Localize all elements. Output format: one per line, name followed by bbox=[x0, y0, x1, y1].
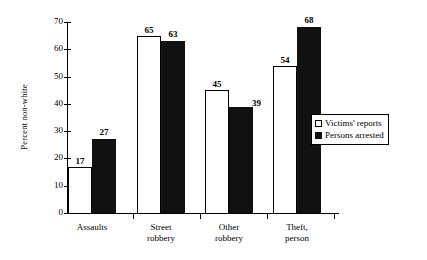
y-tick-label-30: 30 bbox=[54, 125, 63, 135]
y-axis-title: Percent non-white bbox=[19, 47, 29, 187]
bar-group-other-robbery: 45 39 bbox=[205, 22, 253, 213]
bar-other-robbery-victims-reports: 45 bbox=[205, 90, 229, 213]
bar-street-robbery-victims-reports: 65 bbox=[137, 36, 161, 213]
bar-value-street-robbery-victims-reports: 65 bbox=[145, 25, 154, 35]
filled-square-icon bbox=[315, 132, 322, 139]
x-axis-label-other-robbery: Other robbery bbox=[196, 222, 262, 244]
x-axis-line bbox=[67, 213, 339, 214]
legend-item-persons-arrested: Persons arrested bbox=[315, 129, 384, 141]
bar-value-assaults-persons-arrested: 27 bbox=[100, 127, 109, 137]
bar-value-other-robbery-persons-arrested: 39 bbox=[252, 98, 261, 108]
x-axis-label-theft-person: Theft, person bbox=[264, 222, 330, 244]
x-tick-separator-3 bbox=[267, 213, 268, 219]
bar-assaults-victims-reports: 17 bbox=[68, 167, 92, 213]
y-tick-label-50: 50 bbox=[54, 71, 63, 81]
y-tick-label-0: 0 bbox=[59, 207, 64, 217]
bar-value-theft-person-victims-reports: 54 bbox=[281, 55, 290, 65]
bar-theft-person-victims-reports: 54 bbox=[273, 66, 297, 213]
legend-label-victims-reports: Victims' reports bbox=[325, 117, 382, 129]
open-square-icon bbox=[315, 120, 322, 127]
chart-legend: Victims' reports Persons arrested bbox=[311, 114, 389, 145]
x-tick-separator-2 bbox=[200, 213, 201, 219]
bar-value-other-robbery-victims-reports: 45 bbox=[213, 79, 222, 89]
x-tick-separator-4 bbox=[334, 213, 335, 219]
bar-value-theft-person-persons-arrested: 68 bbox=[305, 15, 314, 25]
bar-value-street-robbery-persons-arrested: 63 bbox=[169, 29, 178, 39]
y-tick-label-10: 10 bbox=[54, 180, 63, 190]
x-axis-label-assaults: Assaults bbox=[59, 222, 125, 233]
bar-assaults-persons-arrested: 27 bbox=[92, 139, 116, 213]
y-tick-label-40: 40 bbox=[54, 98, 63, 108]
bar-other-robbery-persons-arrested: 39 bbox=[229, 107, 253, 213]
y-tick-label-20: 20 bbox=[54, 152, 63, 162]
legend-label-persons-arrested: Persons arrested bbox=[325, 129, 384, 141]
bar-value-assaults-victims-reports: 17 bbox=[76, 156, 85, 166]
x-tick-separator-1 bbox=[133, 213, 134, 219]
bar-group-assaults: 17 27 bbox=[68, 22, 116, 213]
bar-chart: Percent non-white 0 10 20 30 40 50 bbox=[0, 0, 427, 260]
plot-area: 0 10 20 30 40 50 60 70 bbox=[67, 22, 338, 213]
bar-group-street-robbery: 65 63 bbox=[137, 22, 185, 213]
bar-street-robbery-persons-arrested: 63 bbox=[161, 41, 185, 213]
legend-item-victims-reports: Victims' reports bbox=[315, 117, 384, 129]
x-axis-label-street-robbery: Street robbery bbox=[128, 222, 194, 244]
y-tick-label-60: 60 bbox=[54, 43, 63, 53]
y-tick-label-70: 70 bbox=[54, 16, 63, 26]
